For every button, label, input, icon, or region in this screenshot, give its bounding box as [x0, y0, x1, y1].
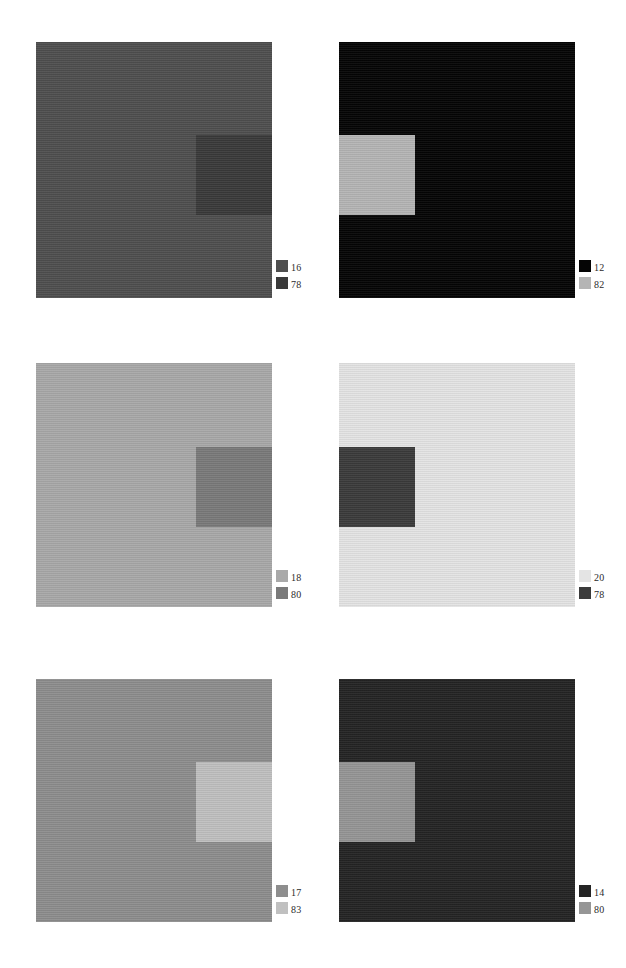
- legend-label: 20: [594, 573, 604, 584]
- legend-swatch-icon: [276, 260, 288, 272]
- legend-swatch-icon: [276, 277, 288, 289]
- legend-label: 16: [291, 263, 301, 274]
- panel-2-legend: 12 82: [579, 257, 626, 291]
- legend-swatch-icon: [276, 885, 288, 897]
- legend-swatch-icon: [276, 587, 288, 599]
- legend-row: 17: [276, 882, 332, 899]
- panel-2-patch: [339, 135, 415, 215]
- panel-6-legend: 14 80: [579, 882, 626, 916]
- legend-label: 17: [291, 888, 301, 899]
- legend-row: 78: [276, 274, 332, 291]
- legend-swatch-icon: [276, 570, 288, 582]
- legend-row: 20: [579, 567, 626, 584]
- legend-label: 82: [594, 280, 604, 291]
- legend-row: 18: [276, 567, 332, 584]
- panel-grid: 16 78 12 82: [0, 0, 626, 968]
- legend-row: 16: [276, 257, 332, 274]
- panel-5-patch: [196, 762, 272, 842]
- panel-1-legend: 16 78: [276, 257, 332, 291]
- panel-3-image: [36, 363, 272, 607]
- legend-label: 14: [594, 888, 604, 899]
- legend-swatch-icon: [579, 277, 591, 289]
- panel-3-legend: 18 80: [276, 567, 332, 601]
- legend-row: 14: [579, 882, 626, 899]
- panel-5-image: [36, 679, 272, 922]
- panel-1-image: [36, 42, 272, 298]
- legend-row: 78: [579, 584, 626, 601]
- legend-label: 78: [594, 590, 604, 601]
- legend-label: 18: [291, 573, 301, 584]
- legend-swatch-icon: [579, 587, 591, 599]
- panel-6-patch: [339, 762, 415, 842]
- legend-row: 80: [579, 899, 626, 916]
- panel-1-patch: [196, 135, 272, 215]
- panel-5-legend: 17 83: [276, 882, 332, 916]
- panel-4-image: [339, 363, 575, 607]
- panel-2-image: [339, 42, 575, 298]
- panel-6-image: [339, 679, 575, 922]
- legend-swatch-icon: [579, 260, 591, 272]
- legend-label: 78: [291, 280, 301, 291]
- legend-row: 82: [579, 274, 626, 291]
- legend-swatch-icon: [579, 570, 591, 582]
- panel-4-legend: 20 78: [579, 567, 626, 601]
- legend-label: 83: [291, 905, 301, 916]
- legend-row: 80: [276, 584, 332, 601]
- legend-label: 80: [594, 905, 604, 916]
- legend-swatch-icon: [276, 902, 288, 914]
- legend-label: 12: [594, 263, 604, 274]
- legend-row: 12: [579, 257, 626, 274]
- panel-3-patch: [196, 447, 272, 527]
- legend-label: 80: [291, 590, 301, 601]
- panel-4-patch: [339, 447, 415, 527]
- legend-row: 83: [276, 899, 332, 916]
- legend-swatch-icon: [579, 902, 591, 914]
- legend-swatch-icon: [579, 885, 591, 897]
